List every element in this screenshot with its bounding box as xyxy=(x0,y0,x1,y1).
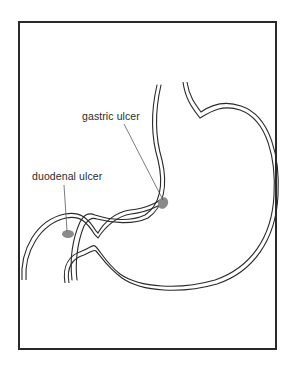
duodenal-leader-line xyxy=(64,185,67,231)
stomach-diagram xyxy=(0,0,294,367)
gastric-ulcer-label: gastric ulcer xyxy=(82,110,140,122)
duodenal-ulcer-label: duodenal ulcer xyxy=(32,170,102,182)
duodenal-ulcer-marker xyxy=(62,230,74,238)
duodenum-wall-upper-a xyxy=(22,200,160,280)
pylorus-upper xyxy=(42,214,80,280)
